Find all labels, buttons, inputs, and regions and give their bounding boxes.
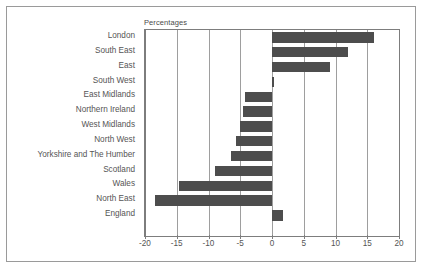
bar: [245, 92, 272, 102]
y-axis-tick-label: Wales: [7, 177, 140, 192]
y-axis-tick-label: Northern Ireland: [7, 103, 140, 118]
bar-row: [145, 75, 399, 90]
bar-row: [145, 45, 399, 60]
x-axis-tick-label: -5: [237, 239, 244, 248]
bar: [272, 77, 274, 87]
bar: [272, 47, 348, 57]
bar-row: [145, 164, 399, 179]
x-axis-tick-label: 15: [363, 239, 372, 248]
bar: [179, 181, 272, 191]
bar: [272, 210, 283, 220]
y-axis-tick-label: East: [7, 59, 140, 74]
y-axis-tick-label: South East: [7, 44, 140, 59]
bar: [215, 166, 272, 176]
y-axis-tick-label: East Midlands: [7, 88, 140, 103]
bar: [240, 121, 272, 131]
x-axis-tick-label: -10: [203, 239, 215, 248]
y-axis-tick-label: London: [7, 29, 140, 44]
x-axis-tick-label: -15: [171, 239, 183, 248]
chart-title: Percentages: [144, 18, 187, 27]
bar-series: [145, 30, 399, 236]
bar-row: [145, 30, 399, 45]
bar-row: [145, 89, 399, 104]
x-axis-tick-label: 10: [331, 239, 340, 248]
figure-frame: Percentages LondonSouth EastEastSouth We…: [6, 6, 416, 262]
y-axis-tick-label: North West: [7, 133, 140, 148]
bar: [231, 151, 272, 161]
bar-row: [145, 208, 399, 223]
bar-row: [145, 60, 399, 75]
bar-row: [145, 119, 399, 134]
bar: [155, 195, 272, 205]
bar-row: [145, 193, 399, 208]
bar: [243, 106, 272, 116]
x-axis-tick-label: 0: [270, 239, 275, 248]
x-axis-tick-label: 5: [301, 239, 306, 248]
bar: [272, 32, 374, 42]
bar-row: [145, 104, 399, 119]
gridline: [399, 30, 400, 236]
y-axis-tick-label: South West: [7, 74, 140, 89]
y-axis-tick-label: North East: [7, 192, 140, 207]
y-axis-labels: LondonSouth EastEastSouth WestEast Midla…: [7, 29, 140, 237]
bar: [236, 136, 272, 146]
x-axis-tick-label: 20: [394, 239, 403, 248]
plot-area: [144, 29, 400, 237]
x-axis-labels: -20-15-10-505101520: [144, 239, 400, 253]
y-axis-tick-label: Scotland: [7, 163, 140, 178]
y-axis-tick-label: England: [7, 207, 140, 222]
y-axis-tick-label: Yorkshire and The Humber: [7, 148, 140, 163]
y-axis-tick-label: West Midlands: [7, 118, 140, 133]
bar-row: [145, 149, 399, 164]
bar-row: [145, 134, 399, 149]
bar: [272, 62, 330, 72]
x-axis-tick-label: -20: [139, 239, 151, 248]
bar-row: [145, 178, 399, 193]
